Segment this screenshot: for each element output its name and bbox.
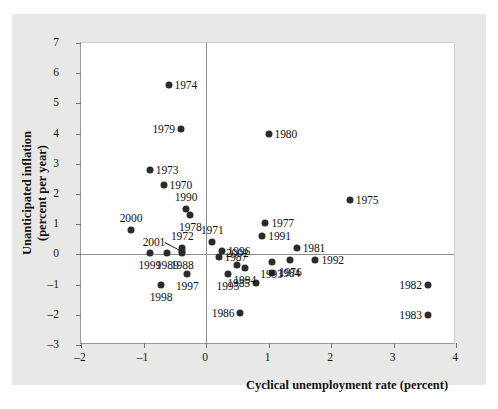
x-tick-label: 1 xyxy=(265,351,271,363)
data-point xyxy=(209,238,216,245)
y-tick xyxy=(76,134,81,135)
data-point-label: 1992 xyxy=(321,254,344,266)
data-point-label: 1973 xyxy=(156,164,179,176)
data-point xyxy=(146,250,153,257)
x-tick-label: –1 xyxy=(137,351,149,363)
y-tick xyxy=(76,103,81,104)
data-point xyxy=(424,281,431,288)
y-tick-label: 5 xyxy=(0,96,68,108)
data-point xyxy=(128,226,135,233)
data-point xyxy=(293,245,300,252)
data-point xyxy=(287,256,294,263)
y-tick xyxy=(76,164,81,165)
y-tick-label: 6 xyxy=(0,66,68,78)
data-point-label: 1990 xyxy=(175,191,198,203)
x-tick xyxy=(206,343,207,348)
y-tick-label: 0 xyxy=(0,247,68,259)
data-point-label: 1975 xyxy=(356,194,379,206)
data-point xyxy=(262,219,269,226)
data-point-label: 1981 xyxy=(303,242,326,254)
x-zero-axis-line xyxy=(206,43,207,343)
x-tick-label: –2 xyxy=(74,351,86,363)
data-point-label: 1979 xyxy=(152,123,175,135)
data-point xyxy=(215,253,222,260)
data-point-label: 2000 xyxy=(120,212,143,224)
data-point-label: 1993 xyxy=(260,268,283,280)
x-tick-label: 4 xyxy=(452,351,458,363)
y-tick xyxy=(76,254,81,255)
data-point-label: 2001 xyxy=(143,236,166,248)
x-tick xyxy=(394,343,395,348)
data-point-label: 1980 xyxy=(275,128,298,140)
data-point-label: 1971 xyxy=(201,224,224,236)
data-point-label: 1978 xyxy=(179,221,202,233)
x-tick-label: 2 xyxy=(327,351,333,363)
x-tick xyxy=(269,343,270,348)
data-point-label: 2002 xyxy=(226,247,249,259)
data-point xyxy=(265,130,272,137)
scatter-plot-figure: Unanticipated inflation (percent per yea… xyxy=(0,0,498,409)
data-point-label: 1991 xyxy=(268,230,291,242)
data-point xyxy=(259,233,266,240)
x-tick-label: 3 xyxy=(390,351,396,363)
data-point xyxy=(158,281,165,288)
y-tick-label: 7 xyxy=(0,36,68,48)
y-tick xyxy=(76,43,81,44)
y-tick xyxy=(76,285,81,286)
y-tick xyxy=(76,194,81,195)
y-tick-label: –3 xyxy=(0,338,68,350)
y-tick-label: 3 xyxy=(0,157,68,169)
data-point xyxy=(234,261,241,268)
data-point-label: 1982 xyxy=(399,279,422,291)
data-point-label: 1974 xyxy=(175,79,198,91)
y-tick-label: 1 xyxy=(0,217,68,229)
x-tick xyxy=(81,343,82,348)
data-point xyxy=(312,257,319,264)
x-tick xyxy=(331,343,332,348)
y-zero-axis-line xyxy=(81,254,454,255)
y-tick-label: 4 xyxy=(0,127,68,139)
data-point xyxy=(346,197,353,204)
data-point xyxy=(146,166,153,173)
data-point-label: 1997 xyxy=(176,280,199,292)
data-point-label: 1999 xyxy=(138,259,161,271)
data-point xyxy=(178,126,185,133)
data-point xyxy=(187,212,194,219)
x-tick-label: 0 xyxy=(202,351,208,363)
data-point-label: 1983 xyxy=(399,309,422,321)
data-point xyxy=(160,181,167,188)
y-tick xyxy=(76,224,81,225)
data-point-label: 1977 xyxy=(271,217,294,229)
data-point xyxy=(237,310,244,317)
data-point xyxy=(165,82,172,89)
y-tick xyxy=(76,315,81,316)
data-point-label: 1970 xyxy=(170,179,193,191)
data-point xyxy=(164,250,171,257)
x-axis-label: Cyclical unemployment rate (percent) xyxy=(246,378,448,393)
y-tick-label: –1 xyxy=(0,278,68,290)
data-point xyxy=(184,271,191,278)
x-tick xyxy=(144,343,145,348)
data-point xyxy=(268,258,275,265)
data-point-label: 1986 xyxy=(212,307,235,319)
data-point-label: 1995 xyxy=(217,280,240,292)
data-point xyxy=(183,206,190,213)
y-tick xyxy=(76,73,81,74)
data-point xyxy=(224,271,231,278)
y-tick-label: 2 xyxy=(0,187,68,199)
data-point-label: 1998 xyxy=(150,291,173,303)
data-point xyxy=(241,264,248,271)
y-tick-label: –2 xyxy=(0,308,68,320)
data-point xyxy=(424,311,431,318)
data-point xyxy=(218,247,225,254)
plot-area: 1970197119721973197419751976197719781979… xyxy=(80,42,455,344)
x-tick xyxy=(456,343,457,348)
